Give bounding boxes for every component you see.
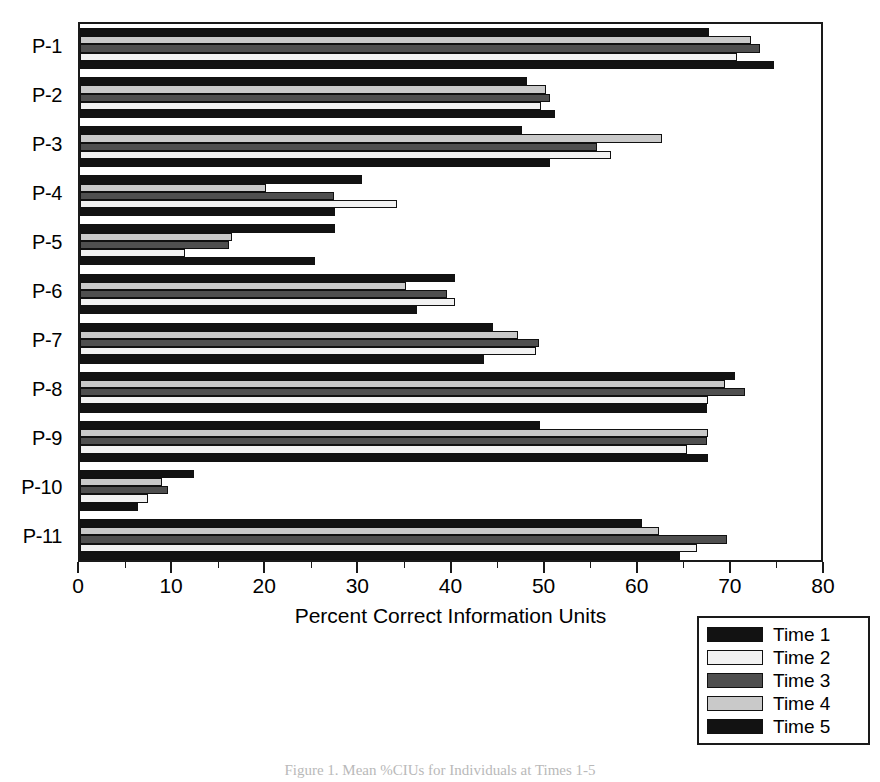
- bar-p-2-time-5: [80, 77, 527, 85]
- bar-group-p-7: [80, 323, 821, 364]
- bar-p-11-time-1: [80, 552, 680, 560]
- bar-p-4-time-1: [80, 208, 335, 216]
- x-tick-label-30: 30: [346, 575, 369, 596]
- legend-item-time-1: Time 1: [707, 623, 862, 646]
- legend-item-time-5: Time 5: [707, 715, 862, 738]
- bar-p-6-time-3: [80, 290, 447, 298]
- x-tick-label-70: 70: [718, 575, 741, 596]
- x-tick-10: [170, 562, 172, 573]
- bar-p-4-time-4: [80, 184, 266, 192]
- bar-p-1-time-3: [80, 44, 760, 52]
- x-tick-label-40: 40: [439, 575, 462, 596]
- figure-container: P-1P-2P-3P-4P-5P-6P-7P-8P-9P-10P-11 0102…: [0, 0, 880, 782]
- x-tick-25: [311, 562, 312, 568]
- legend-swatch-time-3: [707, 673, 763, 688]
- chart-legend: Time 1Time 2Time 3Time 4Time 5: [697, 616, 870, 745]
- legend-swatch-time-5: [707, 719, 763, 734]
- x-tick-label-50: 50: [532, 575, 555, 596]
- y-tick-label-p-3: P-3: [32, 134, 62, 154]
- x-tick-50: [543, 562, 545, 573]
- bar-p-2-time-3: [80, 94, 550, 102]
- bar-p-10-time-1: [80, 503, 138, 511]
- bar-p-4-time-3: [80, 192, 334, 200]
- bar-p-3-time-3: [80, 143, 597, 151]
- x-tick-40: [450, 562, 452, 573]
- y-tick-label-p-9: P-9: [32, 428, 62, 448]
- bar-p-4-time-2: [80, 200, 397, 208]
- x-tick-45: [497, 562, 498, 568]
- bar-p-1-time-2: [80, 53, 737, 61]
- y-tick-label-p-1: P-1: [32, 36, 62, 56]
- y-tick-label-p-7: P-7: [32, 330, 62, 350]
- bar-p-3-time-2: [80, 151, 611, 159]
- x-tick-5: [125, 562, 126, 568]
- bar-p-9-time-5: [80, 421, 540, 429]
- bar-p-9-time-2: [80, 445, 687, 453]
- bar-p-8-time-2: [80, 396, 708, 404]
- legend-label-time-3: Time 3: [773, 671, 830, 690]
- bar-p-10-time-3: [80, 486, 168, 494]
- bar-p-11-time-5: [80, 519, 642, 527]
- bar-p-10-time-5: [80, 470, 194, 478]
- x-tick-20: [263, 562, 265, 573]
- bar-p-7-time-4: [80, 331, 518, 339]
- x-tick-60: [636, 562, 638, 573]
- bar-p-11-time-2: [80, 544, 697, 552]
- bar-group-p-1: [80, 28, 821, 69]
- bar-p-9-time-1: [80, 454, 708, 462]
- bar-p-8-time-5: [80, 372, 735, 380]
- legend-item-time-2: Time 2: [707, 646, 862, 669]
- legend-swatch-time-1: [707, 627, 763, 642]
- bar-p-4-time-5: [80, 175, 362, 183]
- bar-p-7-time-1: [80, 355, 484, 363]
- x-tick-75: [776, 562, 777, 568]
- bar-p-2-time-1: [80, 110, 555, 118]
- bar-group-p-10: [80, 470, 821, 511]
- y-tick-label-p-5: P-5: [32, 232, 62, 252]
- x-tick-55: [590, 562, 591, 568]
- bar-group-p-8: [80, 372, 821, 413]
- bar-group-p-3: [80, 126, 821, 167]
- bar-p-1-time-1: [80, 61, 774, 69]
- bar-group-p-11: [80, 519, 821, 560]
- x-tick-15: [218, 562, 219, 568]
- legend-label-time-4: Time 4: [773, 694, 830, 713]
- x-tick-35: [404, 562, 405, 568]
- bar-p-6-time-4: [80, 282, 406, 290]
- bar-group-p-5: [80, 224, 821, 265]
- bar-p-3-time-5: [80, 126, 522, 134]
- legend-swatch-time-2: [707, 650, 763, 665]
- bar-p-11-time-3: [80, 535, 727, 543]
- x-tick-0: [77, 562, 79, 573]
- x-tick-label-20: 20: [253, 575, 276, 596]
- plot-area: [78, 22, 823, 562]
- bar-p-7-time-5: [80, 323, 493, 331]
- bar-p-5-time-2: [80, 249, 185, 257]
- bar-p-2-time-4: [80, 85, 546, 93]
- y-tick-label-p-6: P-6: [32, 281, 62, 301]
- bar-p-6-time-5: [80, 274, 455, 282]
- bar-group-p-9: [80, 421, 821, 462]
- x-tick-80: [822, 562, 824, 573]
- bar-p-5-time-4: [80, 233, 232, 241]
- x-tick-label-60: 60: [625, 575, 648, 596]
- x-tick-label-0: 0: [72, 575, 84, 596]
- y-tick-label-p-8: P-8: [32, 379, 62, 399]
- bar-p-2-time-2: [80, 102, 541, 110]
- y-axis-labels: P-1P-2P-3P-4P-5P-6P-7P-8P-9P-10P-11: [0, 22, 70, 562]
- bar-p-6-time-2: [80, 298, 455, 306]
- bar-p-9-time-4: [80, 429, 708, 437]
- bar-p-9-time-3: [80, 437, 707, 445]
- bar-p-8-time-4: [80, 380, 725, 388]
- bar-group-p-4: [80, 175, 821, 216]
- legend-item-time-3: Time 3: [707, 669, 862, 692]
- legend-swatch-time-4: [707, 696, 763, 711]
- bar-p-5-time-3: [80, 241, 229, 249]
- x-tick-30: [356, 562, 358, 573]
- y-tick-label-p-11: P-11: [23, 526, 62, 546]
- bar-p-5-time-5: [80, 224, 335, 232]
- y-tick-label-p-10: P-10: [21, 477, 62, 497]
- legend-label-time-5: Time 5: [773, 717, 830, 736]
- legend-label-time-1: Time 1: [773, 625, 830, 644]
- y-tick-label-p-2: P-2: [32, 85, 62, 105]
